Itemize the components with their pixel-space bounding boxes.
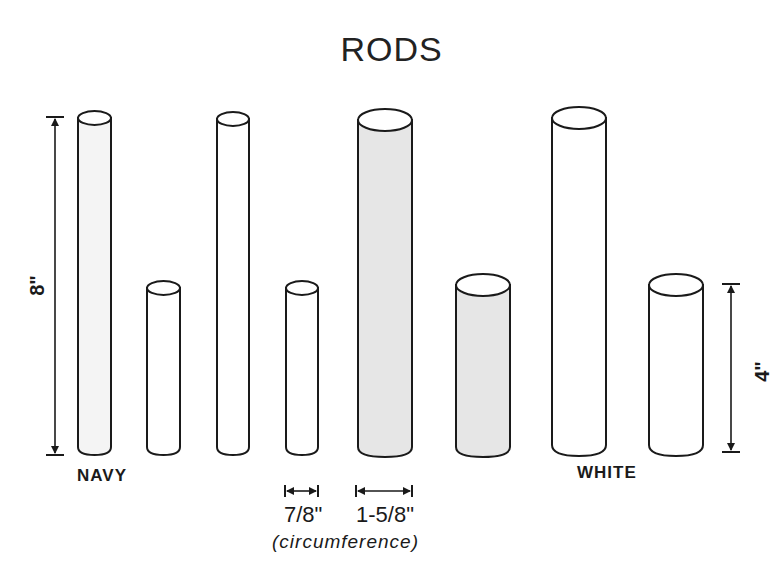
rod-white-8in-thick bbox=[552, 107, 606, 456]
circumference-note: (circumference) bbox=[272, 531, 419, 553]
circumference-label-thin: 7/8" bbox=[284, 502, 322, 528]
rod-navy-8in-thick bbox=[358, 109, 412, 457]
height-label-4in: 4" bbox=[751, 355, 774, 389]
height-label-8in: 8" bbox=[26, 269, 49, 303]
circumference-dimension-thin bbox=[285, 485, 318, 497]
circumference-dimension-thick bbox=[356, 485, 412, 497]
rod-white-8in-thin bbox=[217, 112, 249, 455]
rod-navy-4in-thick bbox=[456, 274, 510, 457]
group-label-navy: NAVY bbox=[77, 466, 127, 486]
height-dimension-8in bbox=[46, 117, 64, 455]
rod-white-4in-thin bbox=[286, 281, 318, 455]
rods-diagram bbox=[0, 0, 783, 575]
rod-white-4in-thick bbox=[649, 274, 703, 456]
rod-navy-8in-thin bbox=[78, 111, 111, 455]
height-dimension-4in bbox=[722, 284, 740, 452]
rod-navy-4in-thin bbox=[147, 281, 180, 455]
group-label-white: WHITE bbox=[577, 463, 637, 483]
circumference-label-thick: 1-5/8" bbox=[356, 502, 414, 528]
